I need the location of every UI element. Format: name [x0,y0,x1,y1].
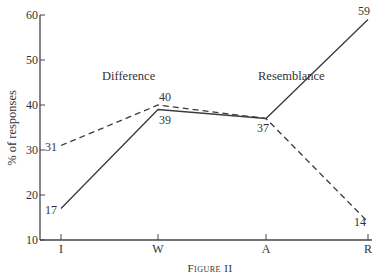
y-tick-label: 10 [26,233,38,247]
data-point-label: 59 [358,4,370,18]
data-point-label: 14 [354,215,366,229]
y-tick-label: 50 [26,53,38,67]
line-chart: 102030405060IWAR 17313940375914 % of res… [0,0,380,276]
figure-caption: FIGURE II [187,262,232,274]
y-tick-label: 60 [26,8,38,22]
data-point-label: 40 [159,90,171,104]
data-point-label: 37 [257,121,269,135]
data-point-label: 31 [45,140,57,154]
axes: 102030405060IWAR [26,8,372,256]
annotation-resemblance: Resemblance [258,69,325,83]
series-group [61,20,368,223]
x-tick-label: A [262,242,271,256]
x-tick-label: W [152,242,164,256]
y-axis-label: % of responses [5,90,19,166]
x-tick-label: I [59,242,63,256]
y-tick-label: 30 [26,143,38,157]
y-tick-label: 20 [26,188,38,202]
series-line-resemblance [61,20,368,209]
series-line-difference [61,105,368,222]
data-point-label: 17 [45,203,57,217]
x-tick-label: R [364,242,372,256]
annotation-difference: Difference [102,69,156,83]
y-tick-label: 40 [26,98,38,112]
point-labels: 17313940375914 [45,4,370,230]
data-point-label: 39 [159,113,171,127]
